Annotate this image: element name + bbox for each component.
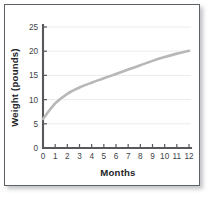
y-tick-label-0: 0 xyxy=(33,144,38,153)
x-axis-title: Months xyxy=(100,167,135,178)
x-tick-label-3: 3 xyxy=(77,152,82,161)
plot-area: 0510152025 0123456789101112 Weight (poun… xyxy=(5,5,201,187)
y-axis-title: Weight (pounds) xyxy=(9,48,20,127)
x-tick-label-4: 4 xyxy=(89,152,94,161)
y-tick-label-15: 15 xyxy=(29,71,39,80)
x-tick-label-6: 6 xyxy=(114,152,119,161)
x-tick-label-7: 7 xyxy=(126,152,131,161)
x-tick-label-11: 11 xyxy=(173,152,182,161)
weight-curve xyxy=(43,51,189,119)
x-tick-label-12: 12 xyxy=(184,152,194,161)
figure-frame: 0510152025 0123456789101112 Weight (poun… xyxy=(4,4,200,186)
x-tick-label-10: 10 xyxy=(160,152,170,161)
y-axis-label-group: 0510152025 xyxy=(29,23,39,153)
x-axis-label-group: 0123456789101112 xyxy=(41,152,194,161)
x-tick-label-5: 5 xyxy=(102,152,107,161)
line-chart: 0510152025 0123456789101112 Weight (poun… xyxy=(5,5,201,187)
x-tick-label-2: 2 xyxy=(65,152,70,161)
x-tick-label-0: 0 xyxy=(41,152,46,161)
y-tick-label-10: 10 xyxy=(29,96,39,105)
x-tick-label-1: 1 xyxy=(53,152,58,161)
gridline-group xyxy=(43,27,191,148)
x-tick-label-8: 8 xyxy=(138,152,143,161)
y-tick-label-25: 25 xyxy=(29,23,39,32)
y-tick-label-20: 20 xyxy=(29,47,39,56)
x-tick-label-9: 9 xyxy=(150,152,155,161)
y-tick-label-5: 5 xyxy=(33,120,38,129)
